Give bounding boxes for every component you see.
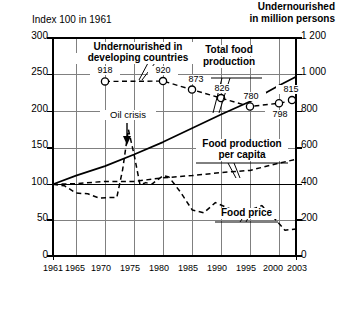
label-undernourished-line1: Undernourished in [78,42,198,53]
point-label-826: 826 [207,84,237,93]
annotation-oil-crisis: Oil crisis [100,110,156,120]
left-axis [47,38,53,256]
data-point-920 [159,78,166,85]
data-point-918 [101,78,108,85]
point-label-798: 798 [265,110,295,119]
point-label-815: 815 [276,85,306,94]
label-undernourished-line2: developing countries [75,53,201,64]
label-food-price: Food price [215,208,278,219]
label-total-food-line1: Total food [196,45,262,56]
data-point-815 [288,97,295,104]
point-label-780: 780 [236,92,266,101]
chart-figure: Index 100 in 1961 Undernourished in mill… [0,0,337,313]
data-point-780 [246,103,253,110]
right-axis [296,38,302,256]
label-per-capita-line2: per capita [198,150,286,161]
data-point-798 [275,100,282,107]
label-total-food-line2: production [193,57,265,68]
data-point-873 [188,86,195,93]
label-per-capita-line1: Food production [196,139,288,150]
point-label-920: 920 [148,66,178,75]
point-label-918: 918 [90,66,120,75]
